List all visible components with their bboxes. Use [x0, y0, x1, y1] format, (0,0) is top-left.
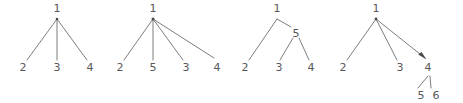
tree-2-node-child-2: 3	[183, 61, 190, 74]
tree-2-node-child-0: 2	[117, 61, 124, 74]
tree-4-apex-dot	[375, 18, 378, 21]
tree-3-node-child-1: 3	[276, 61, 283, 74]
tree-4-edge-4-5	[418, 76, 428, 88]
tree-4-node-inner: 4	[425, 61, 432, 74]
tree-4-edge-1-2	[347, 19, 376, 60]
tree-3-node-inner: 5	[293, 27, 300, 40]
tree-4-node-grandchild-1: 6	[433, 89, 440, 102]
tree-3-edge-1-5	[277, 19, 291, 27]
tree-3: 1 5 2 3 4	[242, 2, 315, 74]
tree-diagram-figure: 1 2 3 4 1 2 5 3 4 1 5 2 3 4	[0, 0, 463, 103]
tree-4-node-grandchild-0: 5	[418, 89, 425, 102]
tree-2-edge-1-2	[124, 19, 153, 60]
tree-4-edge-1-4	[376, 19, 425, 58]
tree-3-node-root: 1	[274, 2, 281, 15]
tree-3-edge-5-4	[299, 38, 309, 60]
tree-2-node-root: 1	[150, 2, 157, 15]
tree-4-edge-4-6	[430, 76, 431, 88]
tree-1-node-child-1: 3	[54, 61, 61, 74]
tree-2-edge-1-3	[153, 19, 183, 60]
tree-2-apex-dot	[152, 18, 155, 21]
tree-4-edge-1-3	[376, 19, 397, 60]
tree-1-node-root: 1	[54, 2, 61, 15]
tree-2: 1 2 5 3 4	[117, 2, 221, 74]
tree-3-node-child-0: 2	[242, 61, 249, 74]
tree-1-edge-1-4	[57, 19, 87, 60]
tree-4-node-root: 1	[373, 2, 380, 15]
tree-4: 1 2 3 4 5 6	[340, 2, 440, 102]
tree-2-edge-1-4	[153, 19, 214, 58]
tree-3-node-child-2: 4	[308, 61, 315, 74]
tree-1-edge-1-2	[27, 19, 57, 60]
tree-diagram-canvas: 1 2 3 4 1 2 5 3 4 1 5 2 3 4	[0, 0, 463, 103]
tree-1-node-child-0: 2	[20, 61, 27, 74]
tree-3-edge-5-3	[280, 38, 293, 60]
tree-1-node-child-2: 4	[87, 61, 94, 74]
tree-4-node-child-1: 3	[397, 61, 404, 74]
tree-1-apex-dot	[56, 18, 59, 21]
tree-2-node-child-1: 5	[150, 61, 157, 74]
tree-1: 1 2 3 4	[20, 2, 94, 74]
tree-3-edge-1-2	[249, 19, 277, 60]
tree-2-node-child-3: 4	[214, 61, 221, 74]
tree-4-node-child-0: 2	[340, 61, 347, 74]
